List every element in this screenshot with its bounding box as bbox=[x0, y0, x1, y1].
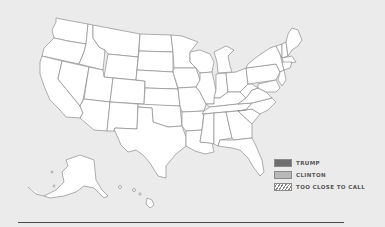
state-hawaii[interactable] bbox=[146, 198, 154, 208]
state-arizona[interactable] bbox=[80, 99, 110, 131]
legend-label: TOO CLOSE TO CALL bbox=[296, 184, 365, 190]
clinton-swatch bbox=[274, 171, 292, 179]
state-kansas[interactable] bbox=[144, 88, 180, 106]
divider-line bbox=[18, 222, 344, 223]
state-arkansas[interactable] bbox=[182, 111, 204, 131]
state-colorado[interactable] bbox=[110, 78, 145, 104]
hatched-swatch bbox=[274, 183, 292, 191]
state-south-dakota[interactable] bbox=[137, 51, 173, 72]
hawaii-island bbox=[133, 189, 136, 192]
state-wyoming[interactable] bbox=[104, 54, 138, 80]
alaska-island bbox=[53, 185, 55, 187]
state-north-dakota[interactable] bbox=[139, 34, 173, 52]
aleutian-islands bbox=[28, 187, 44, 196]
hawaii-island bbox=[119, 186, 122, 189]
state-michigan[interactable] bbox=[214, 46, 234, 73]
legend-item-trump: TRUMP bbox=[274, 157, 365, 169]
legend-item-clinton: CLINTON bbox=[274, 169, 365, 181]
legend-item-too-close: TOO CLOSE TO CALL bbox=[274, 181, 365, 193]
state-iowa[interactable] bbox=[173, 68, 200, 88]
state-florida[interactable] bbox=[218, 138, 264, 176]
hawaii-island bbox=[139, 193, 141, 195]
state-maine[interactable] bbox=[286, 28, 302, 56]
legend-label: CLINTON bbox=[296, 172, 326, 178]
state-alaska[interactable] bbox=[44, 155, 108, 198]
alaska-island bbox=[51, 171, 53, 173]
map-legend: TRUMP CLINTON TOO CLOSE TO CALL bbox=[274, 157, 365, 193]
state-connecticut-ri[interactable] bbox=[282, 62, 292, 70]
trump-swatch bbox=[274, 159, 292, 167]
legend-label: TRUMP bbox=[296, 160, 320, 166]
state-new-mexico[interactable] bbox=[107, 102, 138, 131]
